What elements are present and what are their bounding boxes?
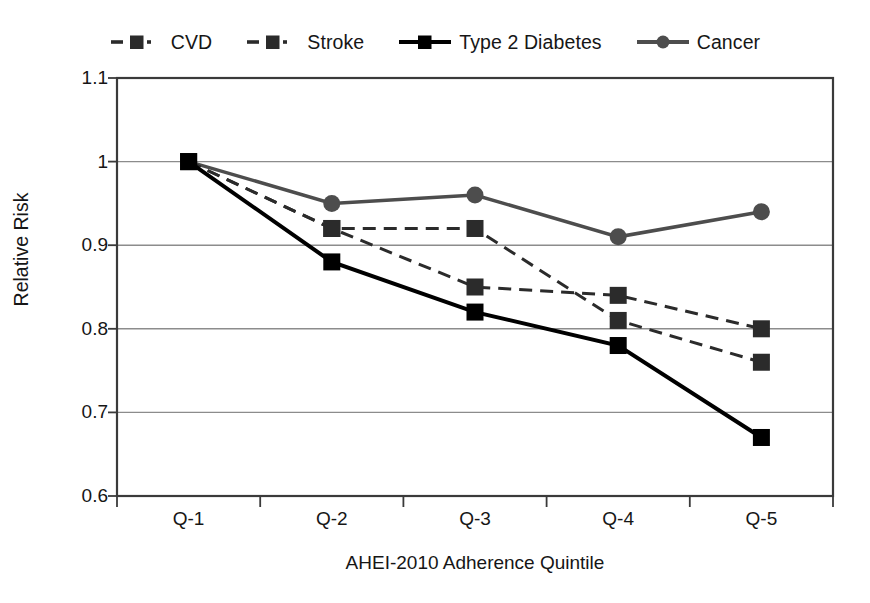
data-point-marker (467, 187, 484, 204)
data-point-marker (467, 304, 484, 321)
chart-canvas (0, 0, 870, 603)
data-point-marker (610, 337, 627, 354)
data-point-marker (323, 253, 340, 270)
data-point-marker (753, 429, 770, 446)
data-point-marker (323, 195, 340, 212)
data-point-marker (610, 312, 627, 329)
data-point-marker (467, 279, 484, 296)
data-point-marker (467, 220, 484, 237)
data-point-marker (753, 320, 770, 337)
relative-risk-line-chart: CVDStrokeType 2 DiabetesCancer Relative … (0, 0, 870, 603)
data-point-marker (610, 287, 627, 304)
data-point-marker (323, 220, 340, 237)
data-point-marker (610, 228, 627, 245)
data-point-marker (753, 354, 770, 371)
data-point-marker (753, 203, 770, 220)
plot-area-wrapper: Relative Risk 1.110.90.80.70.6 Q-1Q-2Q-3… (0, 0, 870, 603)
data-point-marker (180, 153, 197, 170)
